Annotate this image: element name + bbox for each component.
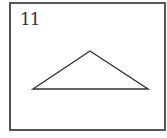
triangle-shape: [33, 51, 148, 89]
triangle-diagram: [0, 0, 167, 138]
